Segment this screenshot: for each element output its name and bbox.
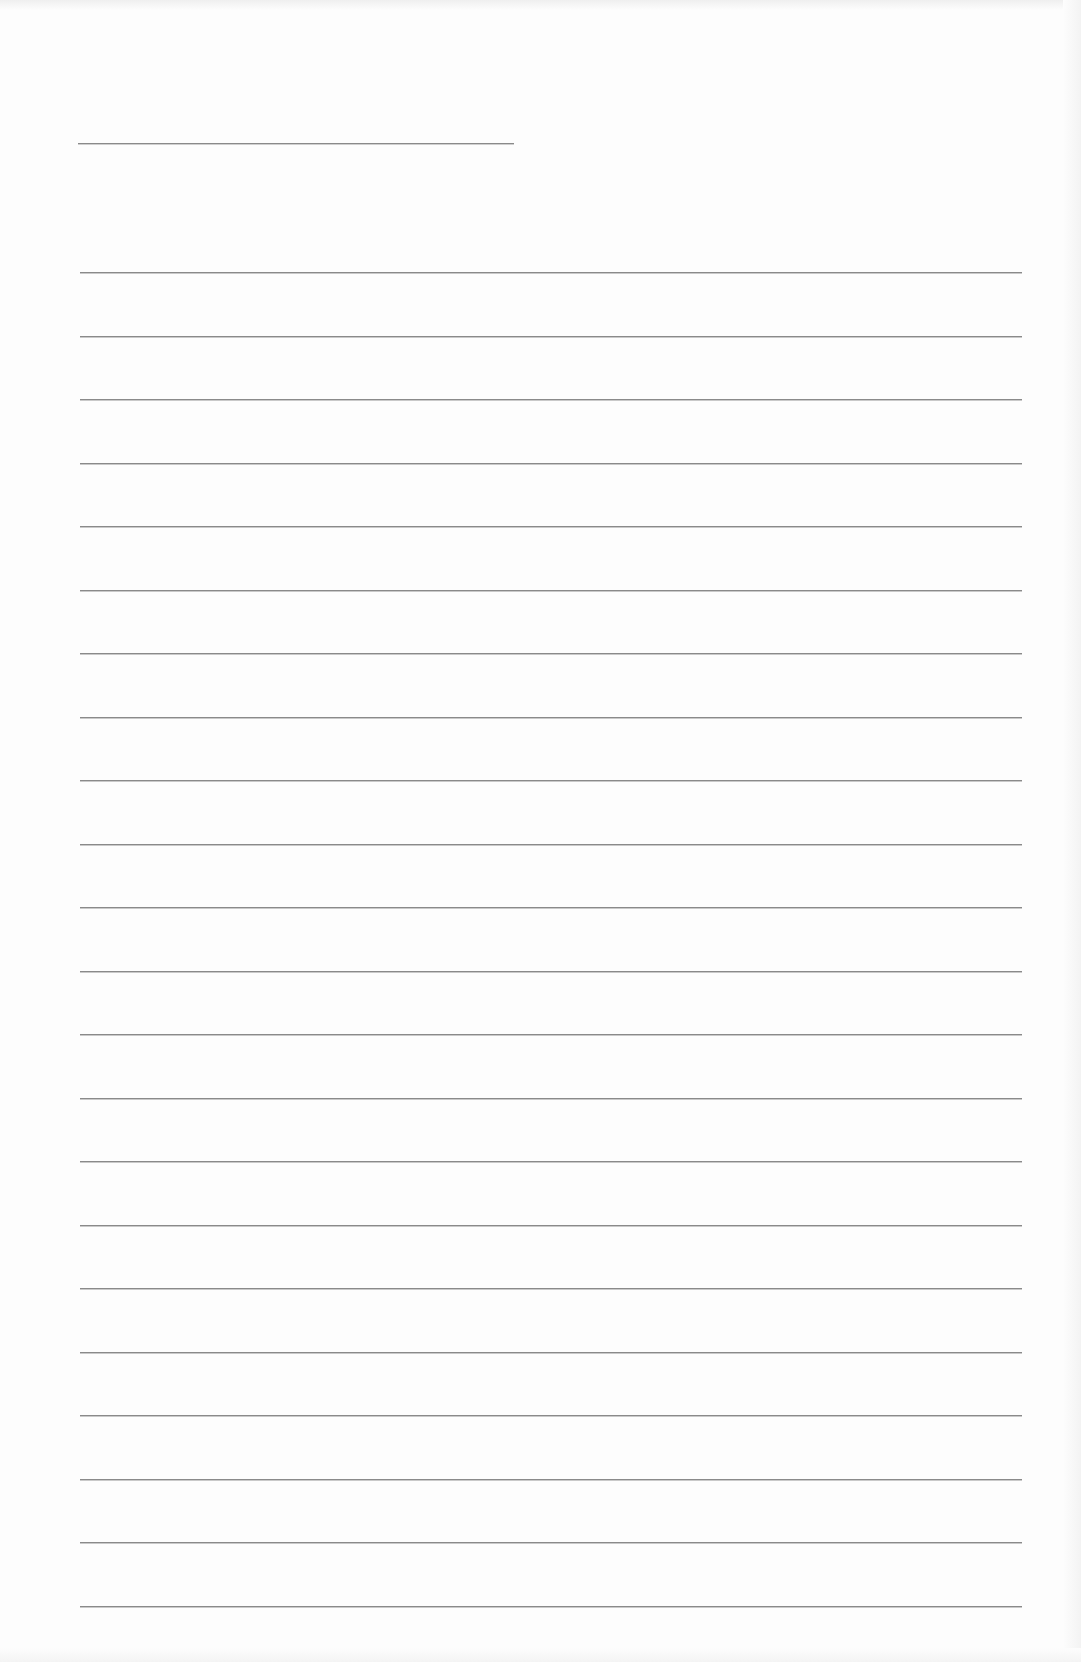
writing-line xyxy=(80,463,1022,465)
writing-line xyxy=(80,399,1022,401)
writing-lines xyxy=(0,0,1081,1662)
writing-line xyxy=(80,780,1022,782)
writing-line xyxy=(80,336,1022,338)
lined-paper-page: { "page": { "type": "blank lined writing… xyxy=(0,0,1081,1662)
writing-line xyxy=(80,1352,1022,1354)
writing-line xyxy=(80,1479,1022,1481)
writing-line xyxy=(80,653,1022,655)
writing-line xyxy=(80,1415,1022,1417)
writing-line xyxy=(80,590,1022,592)
writing-line xyxy=(80,1225,1022,1227)
writing-line xyxy=(80,844,1022,846)
writing-line xyxy=(80,1098,1022,1100)
writing-line xyxy=(80,1034,1022,1036)
writing-line xyxy=(80,717,1022,719)
writing-line xyxy=(80,272,1022,274)
writing-line xyxy=(80,1161,1022,1163)
writing-line xyxy=(80,971,1022,973)
writing-line xyxy=(80,1606,1022,1608)
writing-line xyxy=(80,1288,1022,1290)
writing-line xyxy=(80,1542,1022,1544)
writing-line xyxy=(80,907,1022,909)
writing-line xyxy=(80,526,1022,528)
